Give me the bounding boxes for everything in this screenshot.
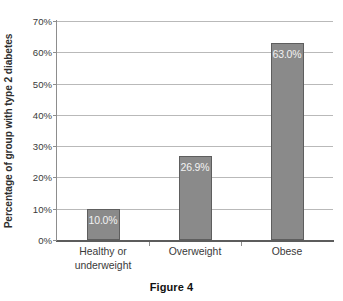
bar-value-label: 63.0%: [272, 48, 303, 60]
y-tick-mark: [53, 209, 57, 210]
x-category-label: Obese: [241, 245, 333, 259]
x-category-label: Overweight: [149, 245, 241, 259]
y-tick-mark: [53, 240, 57, 241]
x-category-label-line: Healthy or: [79, 246, 126, 257]
y-axis-title-text: Percentage of group with type 2 diabetes: [3, 33, 14, 228]
y-axis-tick-labels: 0%10%20%30%40%50%60%70%: [18, 21, 52, 240]
y-tick-mark: [53, 177, 57, 178]
x-axis-category-labels: Healthy orunderweightOverweightObese: [57, 245, 333, 281]
y-tick-label: 0%: [18, 235, 52, 246]
x-category-label-line: Overweight: [169, 246, 222, 257]
gridline: [57, 21, 333, 22]
plot-area: 10.0%26.9%63.0%: [57, 21, 333, 240]
y-tick-label: 40%: [18, 109, 52, 120]
y-tick-label: 30%: [18, 141, 52, 152]
x-category-label: Healthy orunderweight: [57, 245, 149, 272]
y-axis-title: Percentage of group with type 2 diabetes: [0, 21, 16, 240]
y-tick-mark: [53, 52, 57, 53]
x-axis-line: [56, 240, 334, 242]
y-tick-mark: [53, 146, 57, 147]
y-tick-label: 50%: [18, 78, 52, 89]
y-tick-mark: [53, 21, 57, 22]
y-tick-label: 70%: [18, 16, 52, 27]
y-tick-label: 10%: [18, 203, 52, 214]
bar[interactable]: 10.0%: [87, 209, 120, 240]
y-tick-label: 60%: [18, 47, 52, 58]
figure-caption: Figure 4: [0, 281, 343, 293]
bar[interactable]: 26.9%: [179, 156, 212, 240]
y-tick-mark: [53, 84, 57, 85]
y-tick-mark: [53, 115, 57, 116]
x-category-label-line: underweight: [57, 259, 149, 273]
bar[interactable]: 63.0%: [271, 43, 304, 240]
y-tick-label: 20%: [18, 172, 52, 183]
bar-value-label: 10.0%: [88, 214, 119, 226]
figure-container: Percentage of group with type 2 diabetes…: [0, 0, 343, 301]
bar-value-label: 26.9%: [180, 161, 211, 173]
x-category-label-line: Obese: [272, 246, 303, 257]
